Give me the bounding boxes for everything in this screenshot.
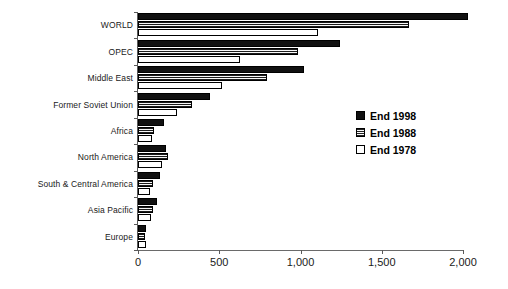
bar [138,48,298,55]
legend-item: End 1988 [356,124,466,141]
x-axis-tick-label: 0 [135,256,141,269]
x-axis-tick-label: 1,000 [287,256,315,269]
x-axis-tick [219,250,220,254]
y-axis-label: OPEC [0,47,133,57]
y-axis-tick [134,118,138,119]
y-axis-tick [134,12,138,13]
bar [138,13,468,20]
legend-item: End 1978 [356,141,466,158]
x-axis-tick [301,250,302,254]
bar [138,74,267,81]
y-axis-label: Former Soviet Union [0,100,133,110]
x-axis-tick-label: 500 [210,256,228,269]
bar-group [138,66,463,90]
x-axis-tick-label: 1,500 [368,256,396,269]
bar [138,21,409,28]
bar [138,241,146,248]
bar [138,66,304,73]
legend-item: End 1998 [356,107,466,124]
bar [138,101,192,108]
x-axis-tick-label: 2,000 [449,256,477,269]
bar [138,145,166,152]
y-axis-label: Middle East [0,73,133,83]
bar [138,127,154,134]
bar-group [138,40,463,64]
bar [138,153,168,160]
y-axis-tick [134,171,138,172]
bar [138,82,222,89]
x-axis-ticks: 05001,0001,5002,000 [138,250,463,276]
y-axis-tick [134,144,138,145]
y-axis-tick [134,65,138,66]
legend-item-label: End 1988 [370,127,416,139]
x-axis-tick [382,250,383,254]
bar [138,40,340,47]
bar [138,135,152,142]
bar [138,188,150,195]
bar [138,93,210,100]
y-axis-label: WORLD [0,20,133,30]
y-axis-label: South & Central America [0,179,133,189]
y-axis-label: Europe [0,232,133,242]
y-axis-label: Asia Pacific [0,205,133,215]
bar [138,180,153,187]
bar [138,233,145,240]
y-axis-tick [134,91,138,92]
bar-group [138,225,463,249]
x-axis-tick [463,250,464,254]
bar [138,172,160,179]
legend-item-label: End 1978 [370,144,416,156]
x-axis-tick [138,250,139,254]
chart-legend: End 1998End 1988End 1978 [356,107,466,158]
bar [138,198,157,205]
bar-group [138,13,463,37]
bar-group [138,198,463,222]
y-axis-tick [134,224,138,225]
y-axis-tick [134,38,138,39]
y-axis-tick [134,197,138,198]
bar [138,56,240,63]
black-filled-swatch [356,111,365,120]
bar [138,109,177,116]
y-axis-label: North America [0,152,133,162]
bar [138,214,151,221]
y-axis-label: Africa [0,126,133,136]
y-axis-category-labels: WORLDOPECMiddle EastFormer Soviet UnionA… [0,12,133,250]
bar [138,29,318,36]
bar-chart: WORLDOPECMiddle EastFormer Soviet UnionA… [0,0,508,289]
bar-group [138,172,463,196]
legend-item-label: End 1998 [370,110,416,122]
gray-hatched-swatch [356,128,365,137]
bar [138,119,164,126]
bar [138,161,162,168]
bar [138,225,146,232]
white-outline-swatch [356,145,365,154]
bar [138,206,153,213]
